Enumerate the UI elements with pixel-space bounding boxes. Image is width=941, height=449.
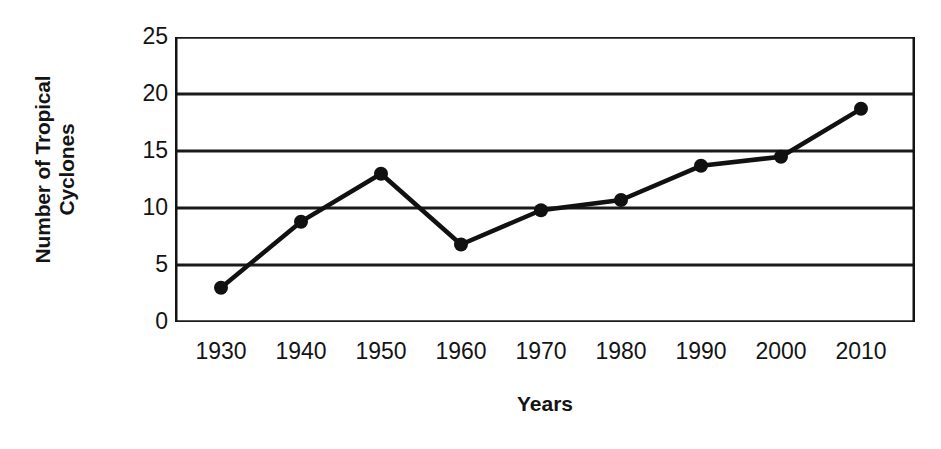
line-chart-canvas xyxy=(175,37,915,322)
x-tick-label: 1990 xyxy=(656,340,746,363)
data-line xyxy=(221,109,861,288)
data-point xyxy=(614,193,628,207)
x-axis-tick-labels: 193019401950196019701980199020002010 xyxy=(175,340,915,374)
y-axis-tick-labels: 0510152025 xyxy=(106,0,168,449)
chart-figure: Number of Tropical Cyclones 0510152025 1… xyxy=(0,0,941,449)
data-point xyxy=(454,237,468,251)
x-tick-label: 1960 xyxy=(416,340,506,363)
x-tick-label: 2010 xyxy=(816,340,906,363)
x-tick-label: 1950 xyxy=(336,340,426,363)
data-point xyxy=(694,159,708,173)
gridlines xyxy=(175,37,915,322)
y-tick-label: 25 xyxy=(110,25,168,48)
data-point xyxy=(214,281,228,295)
y-axis-title-text: Number of Tropical Cyclones xyxy=(31,76,78,264)
data-point xyxy=(774,150,788,164)
data-point xyxy=(534,203,548,217)
y-tick-label: 10 xyxy=(110,196,168,219)
data-point xyxy=(854,102,868,116)
y-tick-label: 20 xyxy=(110,82,168,105)
x-axis-title: Years xyxy=(175,392,915,416)
y-tick-label: 5 xyxy=(110,253,168,276)
x-tick-label: 2000 xyxy=(736,340,826,363)
data-point xyxy=(374,167,388,181)
y-axis-title: Number of Tropical Cyclones xyxy=(0,0,110,340)
y-tick-label: 15 xyxy=(110,139,168,162)
data-point xyxy=(294,215,308,229)
y-tick-label: 0 xyxy=(110,310,168,333)
x-tick-label: 1970 xyxy=(496,340,586,363)
plot-area xyxy=(175,37,915,322)
x-tick-label: 1940 xyxy=(256,340,346,363)
y-axis-title-line-2: Cyclones xyxy=(55,76,79,264)
x-tick-label: 1930 xyxy=(176,340,266,363)
y-axis-title-line-1: Number of Tropical xyxy=(31,76,54,264)
x-tick-label: 1980 xyxy=(576,340,666,363)
